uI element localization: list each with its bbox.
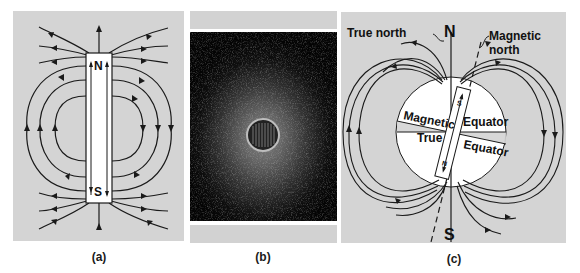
caption-a: (a) <box>79 250 119 264</box>
panel-b-iron-filings <box>190 11 337 243</box>
geographic-north-label: N <box>444 23 456 40</box>
true-equator-word1: True <box>417 131 443 145</box>
caption-b: (b) <box>243 250 283 264</box>
earth-magnetic-field-diagram: S N True north N Magnetic north S Magnet… <box>341 12 566 243</box>
magnetic-equator-word2: Equator <box>463 115 509 129</box>
geographic-south-label: S <box>444 226 455 243</box>
true-north-label: True north <box>347 26 406 40</box>
caption-c: (c) <box>434 252 474 266</box>
magnetic-north-label-line2: north <box>489 43 520 57</box>
magnet-north-label: N <box>94 59 103 73</box>
magnetic-north-label-line1: Magnetic <box>489 29 541 43</box>
panel-c-earth-field: S N True north N Magnetic north S Magnet… <box>341 12 566 243</box>
panel-a-bar-magnet: N S <box>13 11 184 241</box>
bar-magnet-field-diagram: N S <box>13 11 184 241</box>
iron-filings-photo <box>190 11 337 243</box>
magnet-south-label: S <box>94 185 102 199</box>
